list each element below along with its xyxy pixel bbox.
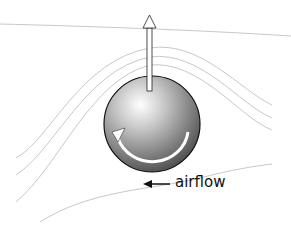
magnus-diagram <box>0 0 291 226</box>
airflow-label: airflow <box>175 173 225 191</box>
airflow-arrow <box>143 180 170 188</box>
